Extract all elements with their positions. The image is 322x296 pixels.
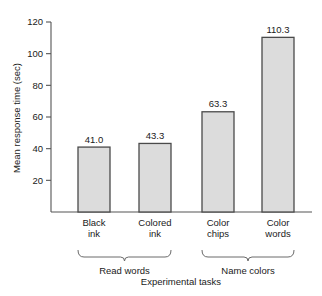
bar xyxy=(139,143,171,212)
bar-value-label: 43.3 xyxy=(146,130,165,141)
group-label: Name colors xyxy=(221,265,275,276)
x-axis-title: Experimental tasks xyxy=(141,276,222,287)
category-labels-group: BlackinkColoredinkColorchipsColorwords xyxy=(82,217,291,239)
group-label: Read words xyxy=(99,265,150,276)
y-tick-label: 20 xyxy=(32,175,43,186)
y-tick-label: 120 xyxy=(27,16,43,27)
y-tick-label: 80 xyxy=(32,80,43,91)
bar xyxy=(78,147,110,212)
bar-value-label: 110.3 xyxy=(266,24,289,35)
y-axis-ticks: 20406080100120 xyxy=(27,16,51,185)
chart-canvas: Mean response time (sec) 20406080100120 … xyxy=(0,0,322,296)
x-category-label: Colorchips xyxy=(207,217,230,239)
value-labels-group: 41.043.363.3110.3 xyxy=(85,24,290,145)
group-brace xyxy=(202,250,294,261)
bar-value-label: 41.0 xyxy=(85,134,104,145)
x-category-label: Blackink xyxy=(82,217,105,239)
bar xyxy=(202,112,234,212)
group-braces: Read wordsName colors xyxy=(78,250,294,276)
x-category-label: Colorwords xyxy=(264,217,291,239)
bar-chart: Mean response time (sec) 20406080100120 … xyxy=(0,0,322,296)
y-tick-label: 100 xyxy=(27,48,43,59)
x-category-label: Coloredink xyxy=(138,217,171,239)
group-brace xyxy=(78,250,171,261)
y-tick-label: 40 xyxy=(32,143,43,154)
y-axis-title: Mean response time (sec) xyxy=(11,63,22,173)
bars-group xyxy=(78,37,294,212)
y-tick-label: 60 xyxy=(32,111,43,122)
bar-value-label: 63.3 xyxy=(209,98,228,109)
bar xyxy=(262,37,294,212)
